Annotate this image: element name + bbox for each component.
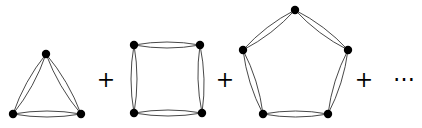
vertex-dot — [196, 41, 204, 49]
diagram-terms — [9, 6, 352, 118]
square-diagram — [130, 41, 206, 117]
vertex-dot — [130, 109, 138, 117]
vertex-dot — [42, 50, 50, 58]
vertex-dot — [239, 46, 247, 54]
propagator-line — [295, 10, 348, 50]
propagator-line — [46, 54, 81, 114]
vertex-dot — [324, 110, 332, 118]
plus-sign: + — [97, 67, 115, 92]
propagator-line — [134, 110, 202, 113]
plus-sign: + — [355, 67, 373, 92]
propagator-line — [46, 54, 81, 114]
operators: +++ — [97, 67, 373, 92]
propagator-line — [134, 45, 137, 113]
propagator-line — [13, 111, 81, 114]
pentagon-diagram — [239, 6, 352, 118]
propagator-line — [134, 113, 202, 116]
propagator-line — [243, 50, 263, 114]
propagator-line — [134, 45, 200, 48]
vertex-dot — [344, 46, 352, 54]
propagator-line — [13, 114, 81, 117]
propagator-line — [328, 50, 348, 114]
propagator-line — [243, 10, 295, 50]
propagator-line — [243, 10, 295, 50]
ring-diagram-series: +++ ⋯ — [0, 0, 422, 128]
propagator-line — [328, 50, 348, 114]
vertex-dot — [77, 110, 85, 118]
vertex-dot — [9, 110, 17, 118]
propagator-line — [134, 42, 200, 45]
propagator-line — [295, 10, 348, 50]
vertex-dot — [198, 109, 206, 117]
propagator-line — [131, 45, 134, 113]
vertex-dot — [130, 41, 138, 49]
ellipsis: ⋯ — [393, 66, 415, 91]
plus-sign: + — [216, 67, 234, 92]
triangle-diagram — [9, 50, 85, 118]
propagator-line — [13, 54, 46, 114]
vertex-dot — [291, 6, 299, 14]
propagator-line — [13, 54, 46, 114]
propagator-line — [263, 111, 328, 114]
vertex-dot — [259, 110, 267, 118]
propagator-line — [263, 114, 328, 117]
propagator-line — [243, 50, 263, 114]
